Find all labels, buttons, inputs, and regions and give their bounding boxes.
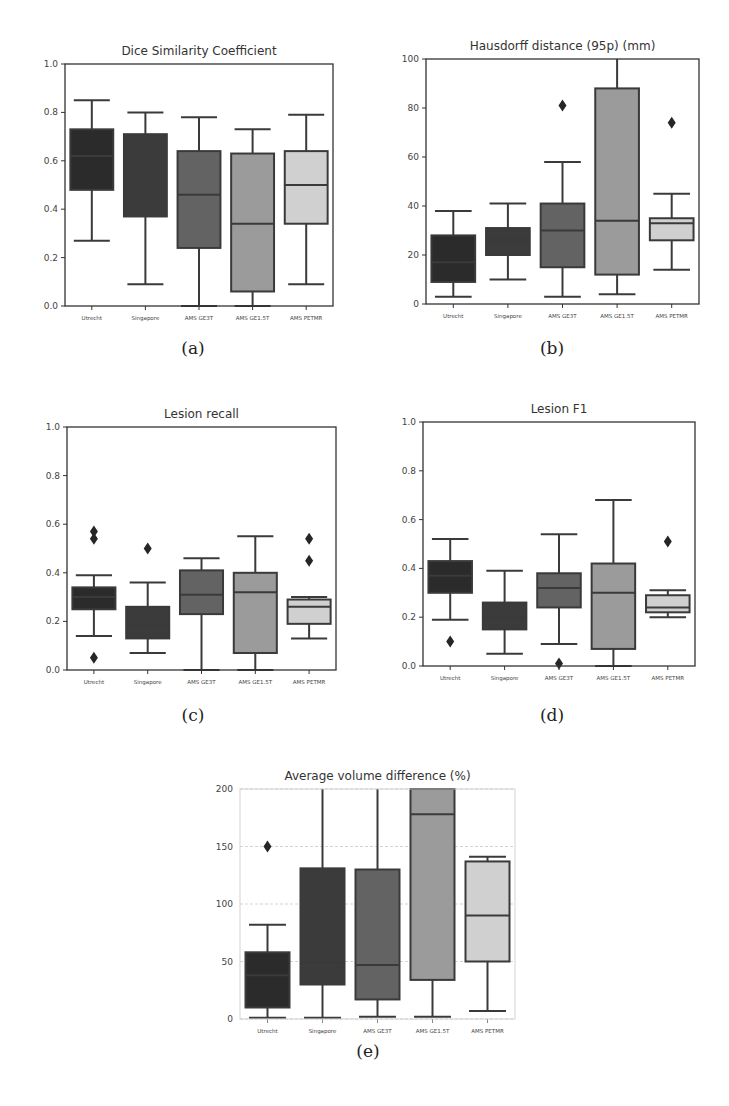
y-tick-label: 150	[216, 842, 233, 852]
box-singapore	[301, 789, 345, 1018]
x-tick-label: AMS GE3T	[363, 1028, 392, 1034]
chart-panel-volume-difference: Average volume difference (%)UtrechtSing…	[0, 0, 729, 1106]
x-tick-label: AMS GE1.5T	[416, 1028, 450, 1034]
caption-e: (e)	[356, 1041, 379, 1061]
box-utrecht	[246, 841, 290, 1018]
x-tick-label: Utrecht	[257, 1028, 278, 1034]
x-tick-label: Singapore	[309, 1028, 337, 1035]
box-ams-ge1-5t	[411, 789, 455, 1017]
y-tick-label: 100	[216, 899, 233, 909]
chart-svg-volume-difference: Average volume difference (%)UtrechtSing…	[0, 0, 729, 1106]
x-tick-label: AMS PETMR	[471, 1028, 504, 1034]
box-ams-petmr	[466, 857, 510, 1011]
y-tick-label: 200	[216, 784, 233, 794]
chart-title: Average volume difference (%)	[284, 769, 470, 783]
y-tick-label: 0	[227, 1014, 233, 1024]
outlier-marker	[264, 841, 272, 853]
box-ams-ge3t	[356, 789, 400, 1017]
y-tick-label: 50	[222, 957, 234, 967]
